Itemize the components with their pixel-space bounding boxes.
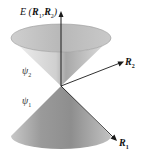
psi1-label: ψ1	[22, 96, 31, 108]
psi2-sub: 2	[28, 72, 31, 78]
var-r1: R	[32, 6, 39, 17]
r2-sub: 2	[132, 63, 135, 69]
conical-intersection-diagram: E (R1,R2) R2 R1 ψ2 ψ1	[0, 0, 144, 157]
r2-axis-label: R2	[125, 57, 135, 69]
psi1-sub: 1	[28, 102, 31, 108]
diagram-canvas	[0, 0, 144, 157]
psi2-label: ψ2	[22, 66, 31, 78]
energy-axis-label: E (R1,R2)	[20, 7, 57, 19]
r1-symbol: R	[119, 137, 126, 148]
r1-sub: 1	[126, 144, 129, 150]
paren-close: )	[54, 6, 57, 17]
r2-symbol: R	[125, 56, 132, 67]
r1-axis-label: R1	[119, 138, 129, 150]
var-r2: R	[44, 6, 51, 17]
